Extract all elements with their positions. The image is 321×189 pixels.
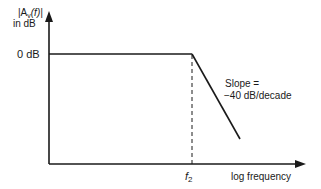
x-axis-label: log frequency (231, 171, 291, 182)
corner-frequency-label: f2 (185, 170, 193, 184)
y-axis-label-line2: in dB (13, 18, 36, 29)
x-axis-arrow-icon (295, 160, 306, 168)
zero-db-label: 0 dB (17, 48, 40, 60)
y-axis-arrow-icon (45, 11, 53, 22)
bode-diagram: |Av(f)| in dB 0 dB Slope = −40 dB/decade… (0, 0, 321, 189)
slope-label-line1: Slope = (225, 78, 259, 89)
slope-label-line2: −40 dB/decade (224, 90, 292, 101)
